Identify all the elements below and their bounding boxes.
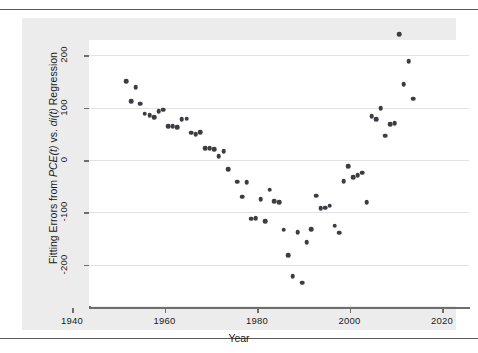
- y-tick-label--100: -100: [58, 195, 69, 229]
- y-tick--100: [84, 212, 89, 214]
- y-tick-label-100: 100: [58, 90, 69, 124]
- y-tick-label-0: 0: [58, 143, 69, 177]
- data-point: [244, 180, 249, 185]
- data-point: [291, 274, 296, 279]
- data-point: [295, 230, 300, 235]
- data-point: [161, 107, 166, 112]
- data-point: [300, 280, 305, 285]
- data-point: [346, 164, 351, 169]
- data-point: [341, 179, 346, 184]
- data-point: [332, 223, 337, 228]
- page-rule-top: [0, 9, 478, 10]
- data-point: [402, 82, 407, 87]
- data-point: [392, 121, 397, 126]
- x-tick-2020: [442, 308, 444, 313]
- data-point: [360, 170, 365, 175]
- y-tick-0: [84, 160, 89, 162]
- data-point: [133, 85, 138, 90]
- y-tick-100: [84, 108, 89, 110]
- y-tick--200: [84, 265, 89, 267]
- data-point: [337, 231, 342, 236]
- x-tick-2000: [350, 308, 352, 313]
- data-point: [365, 200, 370, 205]
- data-point: [184, 116, 189, 121]
- data-point: [198, 130, 203, 135]
- y-axis-title-part-d: di(t): [47, 108, 59, 126]
- data-point: [235, 179, 240, 184]
- gridline-y-0: [89, 160, 469, 161]
- data-point: [124, 79, 129, 84]
- data-point: [152, 115, 157, 120]
- data-point: [286, 253, 291, 258]
- x-tick-label-2020: 2020: [422, 315, 462, 326]
- x-tick-1960: [165, 308, 167, 313]
- data-point: [217, 154, 222, 159]
- gridline-y-200: [89, 55, 469, 56]
- data-point: [411, 96, 416, 101]
- x-tick-label-1980: 1980: [237, 315, 277, 326]
- x-tick-label-1940: 1940: [52, 315, 92, 326]
- data-point: [314, 193, 319, 198]
- gridline-y--100: [89, 212, 469, 213]
- data-point: [221, 149, 226, 154]
- y-axis-title: Fitting Errors from PCE(t) vs. di(t) Reg…: [47, 23, 59, 293]
- data-point: [175, 125, 180, 130]
- data-point: [254, 216, 259, 221]
- data-point: [304, 240, 309, 245]
- data-point: [328, 203, 333, 208]
- data-point: [383, 134, 388, 139]
- data-point: [277, 200, 282, 205]
- data-point: [129, 99, 134, 104]
- data-point: [226, 167, 231, 172]
- data-point: [374, 117, 379, 122]
- data-point: [267, 188, 272, 193]
- x-axis-spine: [89, 307, 470, 309]
- x-tick-1980: [257, 308, 259, 313]
- x-tick-label-1960: 1960: [145, 315, 185, 326]
- y-tick-label--200: -200: [58, 247, 69, 281]
- y-axis-title-part-a: Fitting Errors from: [47, 177, 59, 264]
- data-point: [406, 59, 411, 64]
- gridline-y--200: [89, 265, 469, 266]
- y-tick-200: [84, 55, 89, 57]
- gridline-y-100: [89, 108, 469, 109]
- data-point: [138, 102, 143, 107]
- x-tick-label-2000: 2000: [330, 315, 370, 326]
- data-point: [240, 194, 245, 199]
- data-point: [378, 106, 383, 111]
- y-axis-title-part-e: Regression: [47, 52, 59, 108]
- data-point: [397, 32, 402, 37]
- x-axis-title: Year: [22, 332, 456, 344]
- data-point: [281, 227, 286, 232]
- data-point: [309, 227, 314, 232]
- y-axis-title-part-c: vs.: [47, 126, 59, 145]
- plot-area: [89, 40, 469, 306]
- data-point: [263, 219, 268, 224]
- y-axis-title-part-b: PCE(t): [47, 145, 59, 177]
- x-tick-1940: [72, 308, 74, 313]
- data-point: [212, 147, 217, 152]
- figure-panel: 2001000-100-20019401960198020002020 Fitt…: [22, 18, 456, 330]
- y-tick-label-200: 200: [58, 38, 69, 72]
- data-point: [258, 197, 263, 202]
